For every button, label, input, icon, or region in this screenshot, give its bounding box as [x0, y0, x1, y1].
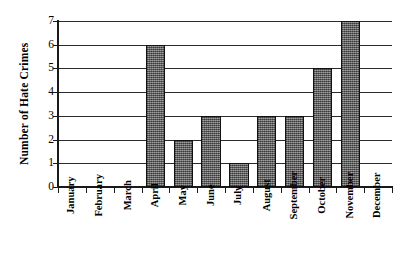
y-axis-tick-mark — [53, 92, 59, 93]
y-axis-tick-label: 1 — [40, 158, 54, 170]
x-axis-category-label-text: August — [261, 179, 272, 211]
x-axis-category-label: September — [281, 190, 309, 256]
x-axis-category-label-text: December — [373, 173, 384, 218]
bar — [174, 140, 193, 187]
x-axis-category-label-text: April — [150, 183, 161, 207]
x-axis-category-label-text: March — [122, 180, 133, 210]
y-axis-tick-label: 5 — [40, 63, 54, 75]
x-axis-category-label: February — [86, 190, 114, 256]
y-axis-tick-label: 2 — [40, 134, 54, 146]
bar — [257, 116, 276, 187]
x-axis-category-label: March — [114, 190, 142, 256]
x-axis-category-label-text: November — [345, 172, 356, 219]
x-axis-category-label: July — [225, 190, 253, 256]
y-axis-tick-mark — [53, 116, 59, 117]
y-axis-tick-label: 6 — [40, 39, 54, 51]
x-axis-category-label-text: July — [234, 186, 245, 205]
bar-chart-figure: Number of Hate Crimes 01234567 JanuaryFe… — [0, 0, 413, 260]
y-axis-tick-labels: 01234567 — [38, 0, 54, 260]
bar — [229, 163, 248, 187]
bar — [146, 45, 165, 187]
bar — [313, 68, 332, 187]
x-axis-tick-mark — [392, 187, 393, 193]
y-axis-tick-mark — [53, 45, 59, 46]
y-axis-tick-mark — [53, 163, 59, 164]
x-axis-category-label: June — [197, 190, 225, 256]
y-axis-tick-label: 0 — [40, 181, 54, 193]
y-axis-tick-mark — [53, 68, 59, 69]
y-axis-title-text: Number of Hate Crimes — [19, 43, 31, 165]
x-axis-category-label-text: May — [178, 185, 189, 205]
bar — [201, 116, 220, 187]
y-axis-tick-label: 4 — [40, 86, 54, 98]
x-axis-category-label-text: September — [289, 171, 300, 219]
y-axis-tick-mark — [53, 21, 59, 22]
plot-area — [58, 21, 392, 187]
x-axis-category-label: October — [309, 190, 337, 256]
x-axis-category-label: August — [253, 190, 281, 256]
x-axis-category-labels: JanuaryFebruaryMarchAprilMayJuneJulyAugu… — [58, 190, 392, 258]
y-axis-title: Number of Hate Crimes — [16, 21, 34, 187]
x-axis-category-label-text: October — [317, 177, 328, 214]
x-axis-category-label-text: June — [206, 184, 217, 206]
x-axis-category-label: December — [364, 190, 392, 256]
y-axis-tick-label: 3 — [40, 110, 54, 122]
x-axis-category-label: November — [336, 190, 364, 256]
x-axis-category-label: January — [58, 190, 86, 256]
x-axis-category-label: April — [142, 190, 170, 256]
y-axis-tick-mark — [53, 140, 59, 141]
x-axis-category-label-text: February — [94, 174, 105, 217]
x-axis-category-label-text: January — [67, 177, 78, 214]
x-axis-category-label: May — [169, 190, 197, 256]
y-axis-tick-label: 7 — [40, 15, 54, 27]
bar — [341, 21, 360, 187]
